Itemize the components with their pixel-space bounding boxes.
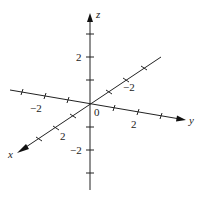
z-axis-label: z — [95, 8, 101, 20]
x-axis-line — [23, 57, 161, 149]
x-negative-tick-label: −2 — [123, 81, 135, 93]
z-positive-tick-label: 2 — [76, 51, 82, 63]
x-axis-arrow-icon — [17, 144, 29, 153]
coordinate-axes-diagram: z y x 0 2 −2 2 −2 2 −2 — [0, 0, 203, 198]
x-tick — [36, 137, 42, 141]
y-negative-tick-label: −2 — [30, 102, 42, 114]
z-negative-tick-label: −2 — [70, 144, 82, 156]
z-axis — [86, 13, 94, 190]
x-axis-label: x — [7, 148, 13, 160]
y-axis-label: y — [188, 114, 194, 126]
z-axis-arrow-icon — [87, 13, 93, 22]
y-positive-tick-label: 2 — [131, 118, 137, 130]
origin-label: 0 — [94, 106, 100, 118]
y-axis-arrow-icon — [176, 116, 186, 122]
x-positive-tick-label: 2 — [60, 130, 66, 142]
